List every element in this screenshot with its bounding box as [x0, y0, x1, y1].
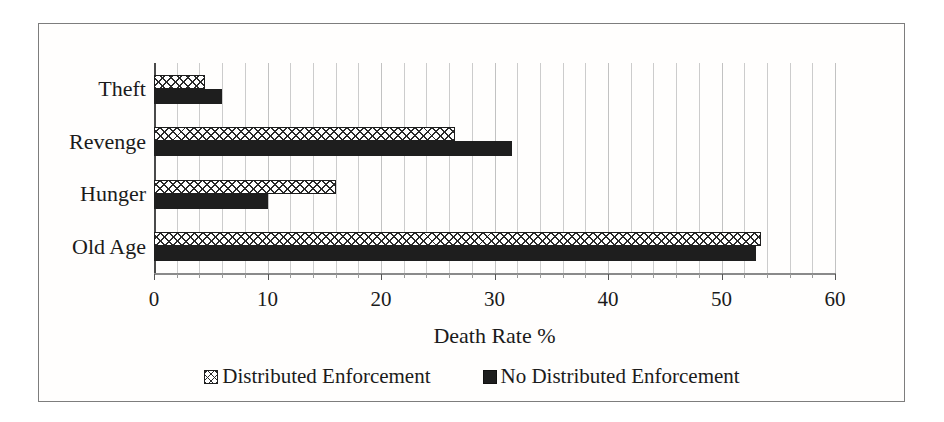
x-tick	[313, 274, 314, 278]
gridline	[790, 63, 791, 273]
x-tick	[290, 274, 291, 278]
x-tick	[722, 274, 723, 280]
x-tick	[835, 274, 836, 280]
x-tick	[653, 274, 654, 278]
x-tick	[495, 274, 496, 280]
x-tick	[676, 274, 677, 278]
x-tick	[177, 274, 178, 278]
x-tick-label-50: 50	[692, 287, 752, 312]
scanned-bar-chart-figure: TheftRevengeHungerOld Age 0102030405060 …	[0, 0, 944, 422]
x-tick	[563, 274, 564, 278]
category-label-hunger: Hunger	[0, 183, 146, 205]
bar-distributed-enforcement-hunger	[154, 180, 336, 194]
x-tick-label-0: 0	[124, 287, 184, 312]
x-tick-label-20: 20	[351, 287, 411, 312]
x-tick	[540, 274, 541, 278]
legend-label: No Distributed Enforcement	[501, 364, 740, 389]
bar-no-distributed-enforcement-revenge	[154, 141, 512, 156]
x-tick	[222, 274, 223, 278]
x-tick	[268, 274, 269, 280]
x-tick	[426, 274, 427, 278]
category-label-old-age: Old Age	[0, 236, 146, 258]
x-tick-label-40: 40	[578, 287, 638, 312]
legend-label: Distributed Enforcement	[222, 364, 430, 389]
legend: Distributed Enforcement No Distributed E…	[0, 364, 944, 389]
x-axis-title: Death Rate %	[154, 323, 835, 349]
hatched-pattern-swatch-icon	[204, 370, 218, 384]
x-tick	[812, 274, 813, 278]
x-tick	[404, 274, 405, 278]
gridline	[812, 63, 813, 273]
bar-no-distributed-enforcement-theft	[154, 89, 222, 104]
solid-black-swatch-icon	[483, 370, 497, 384]
x-tick	[381, 274, 382, 280]
x-tick	[767, 274, 768, 278]
x-tick	[472, 274, 473, 278]
bar-no-distributed-enforcement-old-age	[154, 246, 756, 261]
category-label-theft: Theft	[0, 78, 146, 100]
x-tick	[517, 274, 518, 278]
category-label-revenge: Revenge	[0, 131, 146, 153]
x-tick-label-60: 60	[805, 287, 865, 312]
x-tick	[585, 274, 586, 278]
bar-distributed-enforcement-old-age	[154, 232, 761, 246]
x-tick-label-30: 30	[465, 287, 525, 312]
x-tick	[336, 274, 337, 278]
x-tick	[699, 274, 700, 278]
legend-item-no-distributed-enforcement: No Distributed Enforcement	[483, 364, 740, 389]
x-tick	[199, 274, 200, 278]
x-tick	[154, 274, 155, 280]
bar-distributed-enforcement-theft	[154, 75, 205, 89]
x-tick-label-10: 10	[238, 287, 298, 312]
x-tick	[449, 274, 450, 278]
x-tick	[608, 274, 609, 280]
gridline	[767, 63, 768, 273]
x-tick	[358, 274, 359, 278]
x-tick	[245, 274, 246, 278]
bar-distributed-enforcement-revenge	[154, 127, 455, 141]
x-tick	[744, 274, 745, 278]
x-tick	[790, 274, 791, 278]
gridline	[835, 63, 836, 273]
bar-no-distributed-enforcement-hunger	[154, 194, 268, 209]
legend-item-distributed-enforcement: Distributed Enforcement	[204, 364, 430, 389]
x-tick	[631, 274, 632, 278]
